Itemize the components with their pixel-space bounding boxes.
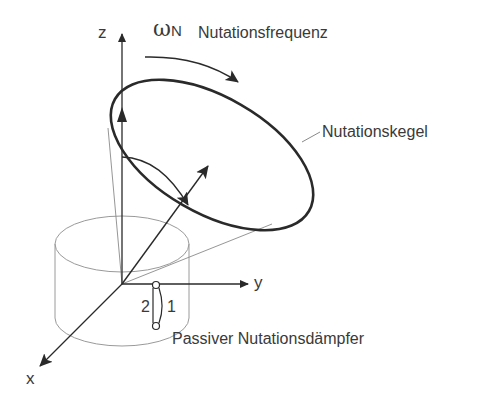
omega-subscript: N bbox=[171, 22, 182, 39]
y-axis-label: y bbox=[254, 274, 263, 291]
cone-label-leader bbox=[302, 132, 320, 142]
frequency-symbol: ωN bbox=[153, 18, 182, 40]
cone-lines bbox=[108, 128, 272, 284]
damper-position-2: 2 bbox=[141, 299, 150, 315]
frequency-arrow bbox=[145, 57, 238, 82]
nutation-cone-rim bbox=[86, 49, 338, 261]
damper bbox=[153, 282, 163, 330]
omega-symbol: ω bbox=[153, 16, 171, 41]
z-axis-inner-arrowhead bbox=[117, 107, 127, 122]
damper-label: Passiver Nutationsdämpfer bbox=[172, 331, 364, 347]
x-axis-label: x bbox=[26, 370, 35, 387]
damper-position-1: 1 bbox=[167, 299, 176, 315]
x-axis bbox=[40, 284, 122, 366]
z-axis-label: z bbox=[98, 24, 107, 41]
spin-vector bbox=[122, 166, 208, 284]
frequency-label: Nutationsfrequenz bbox=[198, 25, 328, 41]
cone-label: Nutationskegel bbox=[322, 124, 428, 140]
